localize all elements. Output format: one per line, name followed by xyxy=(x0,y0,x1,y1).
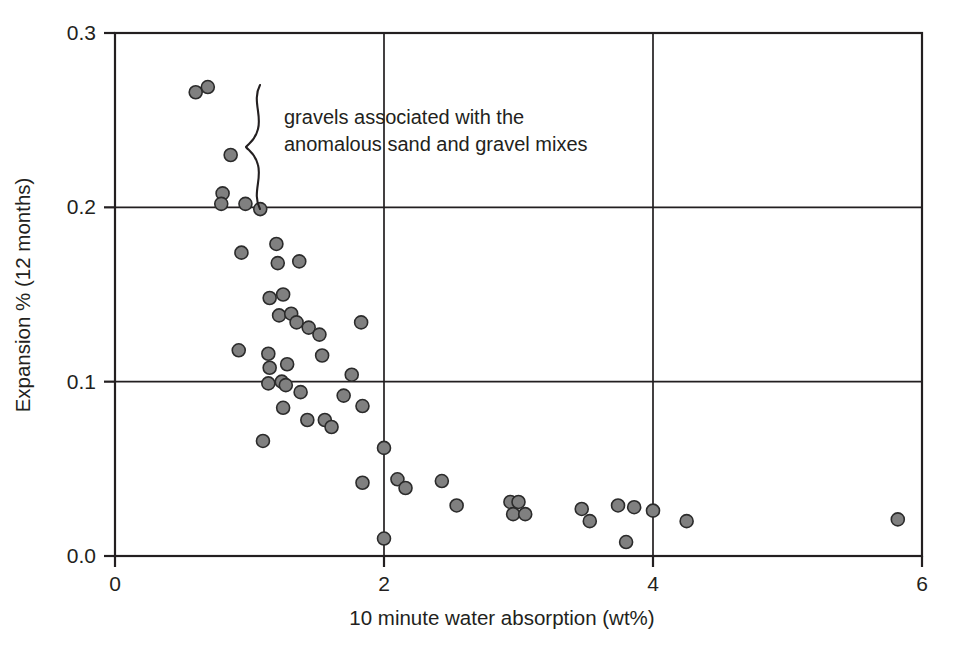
data-point xyxy=(620,536,633,549)
data-point xyxy=(189,86,202,99)
data-point xyxy=(262,377,275,390)
y-axis-title: Expansion % (12 months) xyxy=(11,178,34,413)
scatter-plot-figure: gravels associated with the anomalous sa… xyxy=(0,0,953,646)
data-point xyxy=(294,386,307,399)
curly-brace-icon xyxy=(246,85,260,209)
data-point xyxy=(215,197,228,210)
x-tick-label-1: 2 xyxy=(378,572,390,595)
data-point xyxy=(356,476,369,489)
y-tick-label-0: 0.0 xyxy=(67,544,96,567)
data-point xyxy=(277,401,290,414)
x-tick-label-2: 4 xyxy=(647,572,659,595)
data-point xyxy=(647,504,660,517)
data-point xyxy=(293,255,306,268)
data-point xyxy=(628,501,641,514)
x-axis-title: 10 minute water absorption (wt%) xyxy=(349,606,654,629)
data-point xyxy=(583,515,596,528)
data-point xyxy=(301,414,314,427)
data-point xyxy=(378,532,391,545)
annotation-line-1: gravels associated with the xyxy=(284,106,524,128)
data-point xyxy=(271,257,284,270)
data-point xyxy=(232,344,245,357)
data-point xyxy=(337,389,350,402)
data-point xyxy=(201,81,214,94)
data-point xyxy=(378,441,391,454)
data-point xyxy=(435,475,448,488)
data-point xyxy=(263,291,276,304)
y-tick-label-3: 0.3 xyxy=(67,21,96,44)
data-point xyxy=(507,508,520,521)
data-point xyxy=(519,508,532,521)
data-point xyxy=(575,502,588,515)
data-point xyxy=(345,368,358,381)
data-point xyxy=(281,358,294,371)
data-point xyxy=(450,499,463,512)
x-tick-label-0: 0 xyxy=(109,572,121,595)
data-point xyxy=(263,361,276,374)
data-point xyxy=(270,237,283,250)
annotation-line-2: anomalous sand and gravel mixes xyxy=(284,133,588,155)
data-point xyxy=(316,349,329,362)
data-point xyxy=(273,309,286,322)
y-tick-label-1: 0.1 xyxy=(67,370,96,393)
plot-canvas: gravels associated with the anomalous sa… xyxy=(0,0,953,646)
data-point xyxy=(256,434,269,447)
data-point xyxy=(224,149,237,162)
data-point xyxy=(355,316,368,329)
data-point xyxy=(313,328,326,341)
data-point xyxy=(356,400,369,413)
x-tick-label-3: 6 xyxy=(916,572,928,595)
data-point xyxy=(325,420,338,433)
data-point xyxy=(235,246,248,259)
data-point xyxy=(279,379,292,392)
data-point xyxy=(512,495,525,508)
data-point xyxy=(680,515,693,528)
data-point xyxy=(399,482,412,495)
data-point xyxy=(891,513,904,526)
y-tick-labels: 0.00.10.20.3 xyxy=(67,21,96,567)
data-point xyxy=(290,316,303,329)
x-tick-labels: 0246 xyxy=(109,572,928,595)
data-point xyxy=(612,499,625,512)
y-tick-label-2: 0.2 xyxy=(67,195,96,218)
data-point xyxy=(262,347,275,360)
data-point xyxy=(277,288,290,301)
data-point xyxy=(239,197,252,210)
